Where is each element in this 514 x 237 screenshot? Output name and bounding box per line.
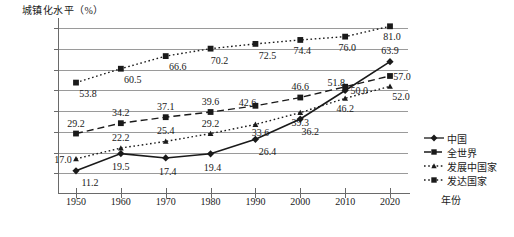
legend-symbol [424, 160, 444, 172]
legend-item-发展中国家[interactable]: 发展中国家 [424, 159, 514, 173]
data-point-marker [118, 66, 124, 72]
legend-item-全世界[interactable]: 全世界 [424, 145, 514, 159]
legend-label: 发达国家 [447, 173, 487, 188]
data-label: 46.2 [336, 103, 354, 114]
legend-label: 中国 [447, 131, 467, 146]
data-label: 76.0 [338, 42, 356, 53]
plot-area: 10.020.030.040.050.060.070.080.0 1950196… [58, 18, 408, 190]
data-label: 81.0 [383, 31, 401, 42]
data-label: 11.2 [81, 177, 98, 188]
data-point-marker [207, 150, 214, 157]
data-label: 51.8 [327, 77, 345, 88]
data-point-marker [163, 53, 169, 59]
data-point-marker [162, 154, 169, 161]
data-label: 36.2 [302, 126, 320, 137]
data-point-marker [72, 167, 79, 174]
data-label: 19.5 [112, 161, 130, 172]
data-label: 74.4 [294, 45, 312, 56]
data-label: 29.2 [202, 118, 220, 129]
data-label: 72.5 [259, 50, 277, 61]
data-point-marker [73, 80, 79, 86]
data-label: 22.2 [112, 132, 130, 143]
legend-item-发达国家[interactable]: 发达国家 [424, 173, 514, 187]
data-point-marker [208, 109, 214, 115]
x-axis-title: 年份 [441, 192, 461, 207]
data-label: 29.2 [67, 118, 85, 129]
data-label: 17.0 [54, 154, 72, 165]
chart-figure: 城镇化水平（%） 年份 10.020.030.040.050.060.070.0… [0, 0, 514, 237]
data-label: 60.5 [124, 74, 142, 85]
data-label: 17.4 [159, 166, 177, 177]
data-label: 39.6 [202, 96, 220, 107]
data-point-marker [387, 23, 393, 29]
data-label: 42.6 [239, 97, 257, 108]
data-point-marker [118, 145, 124, 150]
data-label: 66.6 [169, 61, 187, 72]
data-label: 50.0 [350, 85, 368, 96]
y-axis-title: 城镇化水平（%） [22, 2, 104, 17]
legend-label: 发展中国家 [447, 159, 497, 174]
legend-item-中国[interactable]: 中国 [424, 131, 514, 145]
data-point-marker [297, 37, 303, 43]
data-label: 37.1 [157, 101, 175, 112]
data-label: 63.9 [381, 45, 399, 56]
data-label: 46.6 [292, 81, 310, 92]
data-label: 33.6 [252, 127, 270, 138]
data-point-marker [342, 34, 348, 40]
legend-symbol [424, 174, 444, 186]
data-point-marker [73, 156, 79, 161]
data-point-marker [117, 150, 124, 157]
data-point-marker [253, 41, 259, 47]
data-label: 34.2 [112, 107, 130, 118]
data-point-marker [73, 131, 79, 137]
data-label: 26.4 [259, 146, 277, 157]
data-label: 70.2 [211, 55, 229, 66]
legend: 中国全世界发展中国家发达国家 [424, 131, 514, 187]
data-label: 39.3 [292, 117, 310, 128]
data-label: 53.8 [79, 88, 97, 99]
data-point-marker [387, 83, 393, 88]
data-label: 52.0 [392, 91, 410, 102]
data-point-marker [163, 114, 169, 120]
legend-symbol [424, 132, 444, 144]
data-label: 19.4 [204, 162, 222, 173]
legend-label: 全世界 [447, 145, 477, 160]
data-point-marker [387, 73, 393, 79]
data-point-marker [208, 46, 214, 52]
data-label: 25.4 [157, 125, 175, 136]
data-point-marker [297, 95, 303, 101]
data-point-marker [118, 120, 124, 126]
legend-symbol [424, 146, 444, 158]
data-label: 57.0 [393, 71, 411, 82]
